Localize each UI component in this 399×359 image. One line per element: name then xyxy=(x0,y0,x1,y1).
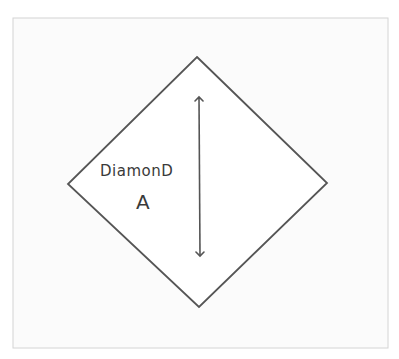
diagram-canvas: DiamonD A xyxy=(0,0,399,359)
diamond-label-line2: A xyxy=(136,190,150,214)
diamond-label-line1: DiamonD xyxy=(100,162,173,180)
vertical-dimension-arrow xyxy=(199,97,200,256)
